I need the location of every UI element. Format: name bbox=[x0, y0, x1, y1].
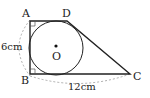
label-d: D bbox=[62, 7, 71, 20]
inscribed-circle bbox=[29, 21, 83, 75]
label-a: A bbox=[21, 7, 31, 20]
label-b: B bbox=[21, 74, 29, 87]
label-c: C bbox=[133, 70, 141, 83]
right-angle-marker-a bbox=[30, 21, 35, 26]
measure-ab: 6cm bbox=[1, 41, 23, 52]
measure-bc: 12cm bbox=[68, 81, 96, 92]
center-point-o bbox=[54, 44, 57, 47]
trapezoid-abcd bbox=[30, 21, 130, 74]
geometry-figure: A D B C O 6cm 12cm bbox=[0, 0, 150, 98]
right-angle-marker-b bbox=[30, 69, 35, 74]
label-o: O bbox=[52, 50, 61, 63]
